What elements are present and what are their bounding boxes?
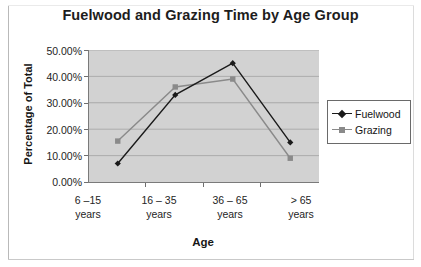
x-axis-title: Age (88, 236, 318, 248)
x-tick-label-1: 16 – 35 years (124, 194, 194, 221)
x-tick-line-1: > 65 (266, 194, 336, 208)
x-tick-line-2: years (53, 208, 123, 222)
legend-marker-square-icon (331, 123, 353, 137)
plot-area (88, 50, 319, 183)
y-tick-label: 10.00% (20, 150, 82, 162)
y-tick-label: 40.00% (20, 71, 82, 83)
x-tick-line-2: years (124, 208, 194, 222)
y-axis-title: Percentage of Total (22, 44, 34, 184)
data-point-grazing-3[interactable] (288, 156, 293, 161)
x-tick-label-0: 6 –15 years (53, 194, 123, 221)
series-line-grazing (118, 79, 291, 158)
y-tick-label: 50.00% (20, 45, 82, 57)
legend-label: Fuelwood (353, 108, 401, 120)
y-tick-label: 30.00% (20, 97, 82, 109)
frame-bottom-rule (8, 259, 414, 260)
frame-right-rule (413, 6, 414, 260)
frame-top-rule (8, 5, 414, 6)
legend-item-grazing[interactable]: Grazing (331, 122, 406, 138)
legend-marker-diamond-icon (331, 107, 353, 121)
x-tick-line-1: 6 –15 (53, 194, 123, 208)
data-point-grazing-2[interactable] (230, 76, 235, 81)
x-tick-mark (203, 183, 204, 187)
gridlines (89, 50, 319, 156)
y-tick-label: 20.00% (20, 124, 82, 136)
x-tick-mark (260, 183, 261, 187)
x-tick-label-2: 36 – 65 years (195, 194, 265, 221)
frame-left-rule (8, 6, 9, 260)
data-point-grazing-1[interactable] (173, 84, 178, 89)
legend-item-fuelwood[interactable]: Fuelwood (331, 106, 406, 122)
legend-label: Grazing (353, 124, 392, 136)
x-tick-label-3: > 65 years (266, 194, 336, 221)
x-tick-line-2: years (266, 208, 336, 222)
x-tick-line-1: 16 – 35 (124, 194, 194, 208)
chart-legend: Fuelwood Grazing (327, 100, 411, 144)
x-tick-mark (145, 183, 146, 187)
y-tick-label: 0.00% (20, 176, 82, 188)
chart-figure: Fuelwood and Grazing Time by Age Group P… (0, 0, 421, 267)
series-line-fuelwood (118, 63, 291, 163)
data-point-grazing-0[interactable] (115, 138, 120, 143)
plot-svg (89, 50, 319, 182)
x-tick-line-1: 36 – 65 (195, 194, 265, 208)
x-tick-line-2: years (195, 208, 265, 222)
chart-title: Fuelwood and Grazing Time by Age Group (0, 7, 421, 23)
